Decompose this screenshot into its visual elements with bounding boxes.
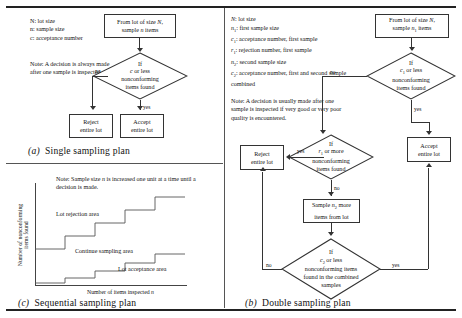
panel-b-label-d3-no: no xyxy=(266,262,272,268)
panel-c-continue-area-label: Continue sampling area xyxy=(75,248,133,254)
panel-c-rejection-area-label: Lot rejection area xyxy=(56,211,99,217)
panel-a-caption: (a) Single sampling plan xyxy=(28,145,130,156)
panel-b-legend: N: lot size n1: first sample size c1: ac… xyxy=(231,15,356,89)
panel-c-y-axis-label: Number of nonconformingitems found xyxy=(17,185,29,285)
panel-b-edge-d2-yes-h xyxy=(289,157,324,158)
panel-c-acceptance-area-label: Lot acceptance area xyxy=(118,266,166,272)
panel-b-arrow-down-d1-yes xyxy=(426,131,432,135)
panel-b-arrow-left-d2-yes xyxy=(286,154,290,160)
panel-b-label-d1-yes: yes xyxy=(414,106,421,112)
figure-container: N: lot size n: sample size c: acceptance… xyxy=(0,0,462,318)
panel-a-reject-box: Rejectentire lot xyxy=(69,114,113,138)
panel-b-start-box: From lot of size N,sample n1 items xyxy=(375,14,449,38)
panel-b-arrow-up-d3-yes xyxy=(426,163,432,167)
panel-b-edge-d1-no-h xyxy=(322,76,367,77)
panel-b-edge-d1-yes-v xyxy=(411,100,412,122)
panel-a-edge-no-h xyxy=(92,76,108,77)
panel-b-decision3-text: Ifc2 or lessnonconforming itemsfound in … xyxy=(281,238,381,300)
panel-a-label-yes: yes xyxy=(143,104,150,110)
left-panels-divider xyxy=(6,163,223,164)
panel-b-label-d1-no: no xyxy=(330,69,336,75)
panel-c-caption-text: Sequential sampling plan xyxy=(34,297,136,308)
vertical-divider xyxy=(224,8,225,308)
top-rule xyxy=(6,6,456,8)
panel-b-caption-letter: (b) xyxy=(245,297,257,308)
panel-b-label-d2-yes: yes xyxy=(297,148,304,154)
panel-b-decision1-text: Ifc1 or lessnonconformingitems found xyxy=(366,52,456,100)
panel-a-start-box: From lot of size N,sample n items xyxy=(104,14,176,38)
panel-a-caption-text: Single sampling plan xyxy=(45,145,130,156)
panel-b-edge-d3-yes-v xyxy=(428,168,429,269)
panel-b-edge-d3-no-h xyxy=(262,269,282,270)
panel-b-label-d3-yes: yes xyxy=(392,262,399,268)
panel-b-caption: (b) Double sampling plan xyxy=(245,297,351,308)
panel-a-accept-box: Acceptentire lot xyxy=(120,114,164,138)
panel-b-label-d2-no: no xyxy=(334,185,340,191)
panel-b-edge-d3-yes-h xyxy=(380,269,428,270)
panel-c-caption: (c) Sequential sampling plan xyxy=(18,297,136,308)
panel-b-sample2-box: Sample n2 moreitems from lot xyxy=(303,199,360,223)
panel-b-accept-box: Acceptentire lot xyxy=(407,137,451,162)
panel-c-x-axis-label: Number of items inspected n xyxy=(87,289,154,295)
panel-b-arrow-down-d2-no xyxy=(328,192,334,196)
panel-b-note: Note: A decision is usually made after o… xyxy=(231,97,351,122)
panel-a-edge-no-v xyxy=(92,76,93,108)
panel-b-arrow-down-3 xyxy=(328,232,334,236)
panel-c-caption-letter: (c) xyxy=(18,297,29,308)
panel-b-decision1-diamond: Ifc1 or lessnonconformingitems found xyxy=(366,52,456,100)
panel-a-arrow-down-no xyxy=(90,106,96,110)
panel-b-edge-d3-no-v xyxy=(262,172,263,269)
panel-b-caption-text: Double sampling plan xyxy=(262,297,351,308)
panel-b-edge-d1-no-v xyxy=(322,76,323,132)
rejection-boundary-line xyxy=(35,197,185,249)
panel-b-decision3-diamond: Ifc2 or lessnonconforming itemsfound in … xyxy=(281,238,381,300)
panel-b-arrow-up-d3-no xyxy=(260,167,266,171)
panel-a-label-no: no xyxy=(95,68,101,74)
panel-b-edge-d1-yes-h xyxy=(411,122,429,123)
panel-a-caption-letter: (a) xyxy=(28,145,40,156)
panel-b-arrow-down-1 xyxy=(409,47,415,51)
bottom-rule xyxy=(6,309,456,311)
